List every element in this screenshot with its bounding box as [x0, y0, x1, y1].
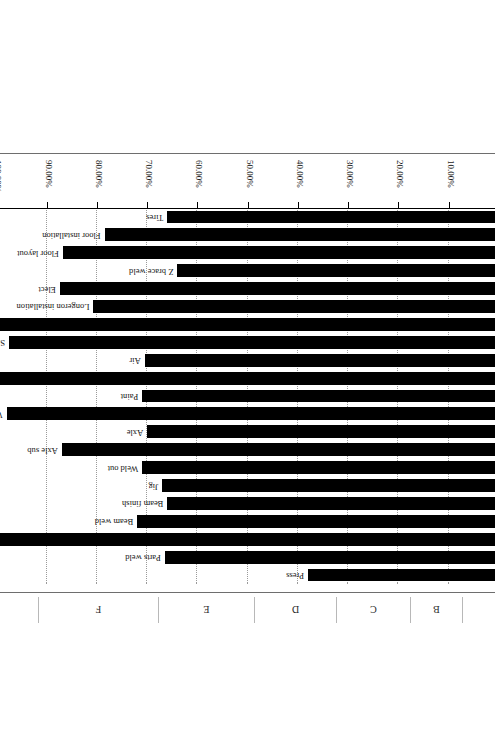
axis-tick-label: 70.00%: [144, 160, 154, 188]
column-header-label: B: [433, 604, 440, 615]
bar-row: [0, 335, 495, 348]
bar-row: [0, 568, 495, 581]
column-header[interactable]: M: [0, 597, 38, 623]
bar[interactable]: [6, 407, 495, 420]
bar[interactable]: [104, 228, 495, 241]
axis-tick-label: 50.00%: [244, 160, 254, 188]
axis-tick-label: 60.00%: [194, 160, 204, 188]
scanned-page: ABCDEFMO 1234567891011121314151617181920…: [0, 0, 495, 750]
axis-tick: [247, 202, 248, 208]
bar[interactable]: [162, 479, 495, 492]
axis-tick: [298, 202, 299, 208]
bar-category-label: Longeron installation: [16, 302, 89, 311]
bar-category-label: Beam weld: [94, 517, 132, 526]
bar-row: [0, 443, 495, 456]
bar-category-label: Jig: [148, 482, 158, 491]
bar[interactable]: [167, 496, 495, 509]
axis-tick: [398, 202, 399, 208]
chart-object[interactable]: Series 1 0.00%10.00%20.00%30.00%40.00%50…: [0, 153, 495, 593]
bar-row: [0, 496, 495, 509]
bar-row: [0, 353, 495, 366]
bar[interactable]: [137, 514, 495, 527]
column-header-label: D: [291, 604, 298, 615]
bar-row: [0, 264, 495, 277]
bar-category-label: Beam finish: [122, 499, 163, 508]
bar-category-label: Elect: [38, 285, 55, 294]
bar[interactable]: [167, 210, 495, 223]
bar[interactable]: [147, 425, 495, 438]
bar[interactable]: [177, 264, 495, 277]
axis-tick-label: 40.00%: [295, 160, 305, 188]
bar-category-label: Axle sub: [27, 446, 57, 455]
axis-tick-label: 20.00%: [395, 160, 405, 188]
axis-tick-label: 10.00%: [445, 160, 455, 188]
axis-tick-label: 30.00%: [345, 160, 355, 188]
axis-tick: [46, 202, 47, 208]
bar-row: [0, 407, 495, 420]
bar-category-label: Weld out: [107, 464, 138, 473]
bar[interactable]: [61, 443, 495, 456]
bar[interactable]: [9, 335, 495, 348]
bar-category-label: Floor installation: [42, 231, 100, 240]
axis-tick: [448, 202, 449, 208]
bar[interactable]: [0, 532, 495, 545]
bar[interactable]: [142, 461, 495, 474]
bar[interactable]: [59, 282, 495, 295]
bar-category-label: Z brace weld: [129, 267, 173, 276]
axis-tick: [197, 202, 198, 208]
bar-row: [0, 532, 495, 545]
bar-row: [0, 479, 495, 492]
bar-row: [0, 282, 495, 295]
bar-category-label: Parts weld: [125, 553, 161, 562]
column-header-label: C: [370, 604, 377, 615]
bar-row: [0, 246, 495, 259]
bar-row: [0, 317, 495, 330]
bar-category-label: Paint: [120, 392, 137, 401]
axis-tick-label: 90.00%: [43, 160, 53, 188]
axis-tick-label: 80.00%: [94, 160, 104, 188]
column-header[interactable]: A: [462, 597, 495, 623]
bar-category-label: Wash: [0, 410, 2, 419]
spreadsheet-sheet: ABCDEFMO 1234567891011121314151617181920…: [0, 128, 495, 623]
bar[interactable]: [142, 389, 495, 402]
column-header-label: E: [203, 604, 209, 615]
column-header[interactable]: D: [254, 597, 336, 623]
bar[interactable]: [62, 246, 495, 259]
bar[interactable]: [0, 371, 495, 384]
bar-row: [0, 425, 495, 438]
column-header-label: F: [95, 604, 101, 615]
bar-row: [0, 550, 495, 563]
column-header[interactable]: E: [158, 597, 254, 623]
bar[interactable]: [308, 568, 495, 581]
bar-category-label: Floor layout: [17, 249, 59, 258]
column-header[interactable]: C: [336, 597, 410, 623]
bar[interactable]: [164, 550, 495, 563]
bar-category-label: Sill: [0, 338, 5, 347]
bar-row: [0, 461, 495, 474]
bar-row: [0, 371, 495, 384]
bar-category-label: Air: [129, 356, 140, 365]
bar-row: [0, 389, 495, 402]
rotated-spreadsheet: ABCDEFMO 1234567891011121314151617181920…: [0, 128, 495, 623]
bar-row: [0, 210, 495, 223]
bar[interactable]: [0, 317, 495, 330]
axis-tick: [348, 202, 349, 208]
column-header[interactable]: B: [410, 597, 462, 623]
column-header-strip: ABCDEFMO: [0, 597, 495, 623]
bar-row: [0, 514, 495, 527]
plot-area: [0, 208, 495, 584]
axis-tick: [147, 202, 148, 208]
bar-category-label: Axle: [126, 428, 143, 437]
bar[interactable]: [93, 300, 495, 313]
axis-tick-label: 100.00%: [0, 160, 3, 192]
bar[interactable]: [144, 353, 495, 366]
axis-tick: [97, 202, 98, 208]
bar-category-label: Press: [286, 571, 304, 580]
bar-category-label: Tires: [146, 213, 163, 222]
column-header[interactable]: F: [38, 597, 158, 623]
